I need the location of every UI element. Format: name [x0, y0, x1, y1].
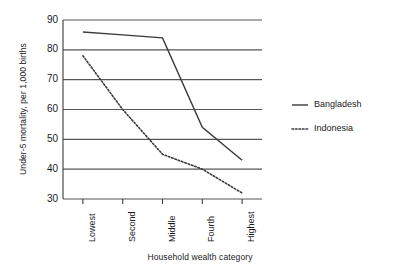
gridlines: [63, 20, 262, 199]
chart-plot-area: [0, 0, 396, 271]
y-axis-tick-label: 80: [30, 43, 58, 54]
legend-label-bangladesh: Bangladesh: [314, 99, 362, 109]
x-axis-tick-label: Highest: [246, 211, 256, 242]
legend-label-indonesia: Indonesia: [314, 123, 353, 133]
y-axis-tick-label: 50: [30, 133, 58, 144]
x-axis-tick-label: Lowest: [87, 213, 97, 242]
x-axis-tick-label: Fourth: [206, 216, 216, 242]
x-axis-title: Household wealth category: [105, 252, 295, 262]
x-axis-tick-label: Middle: [167, 215, 177, 242]
x-axis-tick-label: Second: [127, 211, 137, 242]
y-axis-tick-label: 70: [30, 73, 58, 84]
y-axis-tick-label: 90: [30, 14, 58, 25]
y-axis-tick-label: 40: [30, 163, 58, 174]
series-line-bangladesh: [83, 32, 242, 160]
legend-line-samples: [292, 105, 308, 129]
series-line-indonesia: [83, 56, 242, 193]
chart-figure: Under-5 mortality, per 1,000 births Hous…: [0, 0, 396, 271]
y-axis-title: Under-5 mortality, per 1,000 births: [18, 24, 28, 194]
y-axis-tick-label: 60: [30, 103, 58, 114]
x-axis-ticks: [83, 199, 242, 204]
y-axis-tick-label: 30: [30, 193, 58, 204]
